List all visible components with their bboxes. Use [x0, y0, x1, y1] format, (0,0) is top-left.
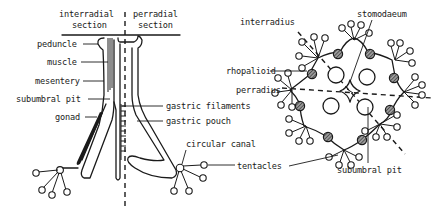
peduncle-outline — [81, 38, 114, 178]
label-perradius: perradius — [236, 85, 281, 95]
label-gonad: gonad — [55, 112, 80, 122]
label-gastric-filaments: gastric filaments — [166, 101, 251, 111]
bell-margin — [290, 38, 404, 150]
header-interradial-line2: section — [72, 20, 107, 30]
label-interradius: interradius — [240, 17, 295, 27]
rhopalioids — [295, 49, 398, 144]
label-rhopalioid: rhopalioid — [226, 66, 276, 76]
label-circular-canal: circular canal — [186, 139, 256, 149]
label-peduncle: peduncle — [37, 39, 77, 49]
label-subumbral-pit-oral: subumbral pit — [337, 165, 402, 175]
label-gastric-pouch: gastric pouch — [166, 116, 231, 126]
gastric-pouch-wall — [114, 44, 120, 180]
header-perradial-line1: perradial — [133, 9, 178, 19]
oral-view-panel: interradius stomodaeum rhopalioid perrad… — [226, 9, 432, 175]
label-mesentery: mesentery — [35, 76, 80, 86]
label-muscle: muscle — [47, 57, 77, 67]
label-tentacles: tentacles — [237, 161, 282, 171]
stauromedusa-anatomy-diagram: interradial section perradial section — [0, 0, 443, 207]
header-perradial-line2: section — [138, 20, 173, 30]
tentacle-cluster-left — [33, 167, 78, 199]
label-stomodaeum: stomodaeum — [357, 9, 407, 19]
label-subumbral-pit: subumbral pit — [16, 94, 81, 104]
tentacle-cluster-right — [171, 162, 207, 194]
header-interradial-line1: interradial — [59, 9, 114, 19]
longitudinal-section-panel: interradial section perradial section — [16, 9, 256, 206]
